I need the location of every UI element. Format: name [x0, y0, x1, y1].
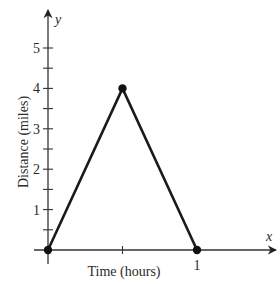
- distance-time-chart: 12345 1 y x Time (hours) Distance (miles…: [0, 0, 280, 284]
- data-series: [44, 84, 201, 254]
- y-axis-ticks: 12345: [33, 41, 53, 230]
- y-tick-label: 4: [33, 81, 40, 96]
- y-tick-label: 5: [33, 41, 40, 56]
- y-tick-label: 2: [33, 162, 40, 177]
- x-tick-label: 1: [194, 258, 201, 273]
- data-point: [118, 84, 126, 92]
- x-axis-label: Time (hours): [88, 264, 161, 280]
- series-line: [48, 88, 197, 250]
- y-axis-label: Distance (miles): [16, 96, 32, 188]
- x-axis-variable: x: [265, 229, 273, 244]
- y-tick-label: 1: [33, 203, 40, 218]
- data-point: [193, 246, 201, 254]
- data-point: [44, 246, 52, 254]
- y-axis-variable: y: [53, 12, 62, 27]
- y-tick-label: 3: [33, 122, 40, 137]
